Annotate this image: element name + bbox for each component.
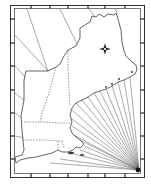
rhumb-hub [136,168,141,173]
land-masses [15,13,137,163]
new-england-land [15,13,137,163]
marthas-vineyard [68,152,74,154]
new-england-map [0,0,151,185]
map-figure: New England outline map with rhumb lines [0,0,151,185]
